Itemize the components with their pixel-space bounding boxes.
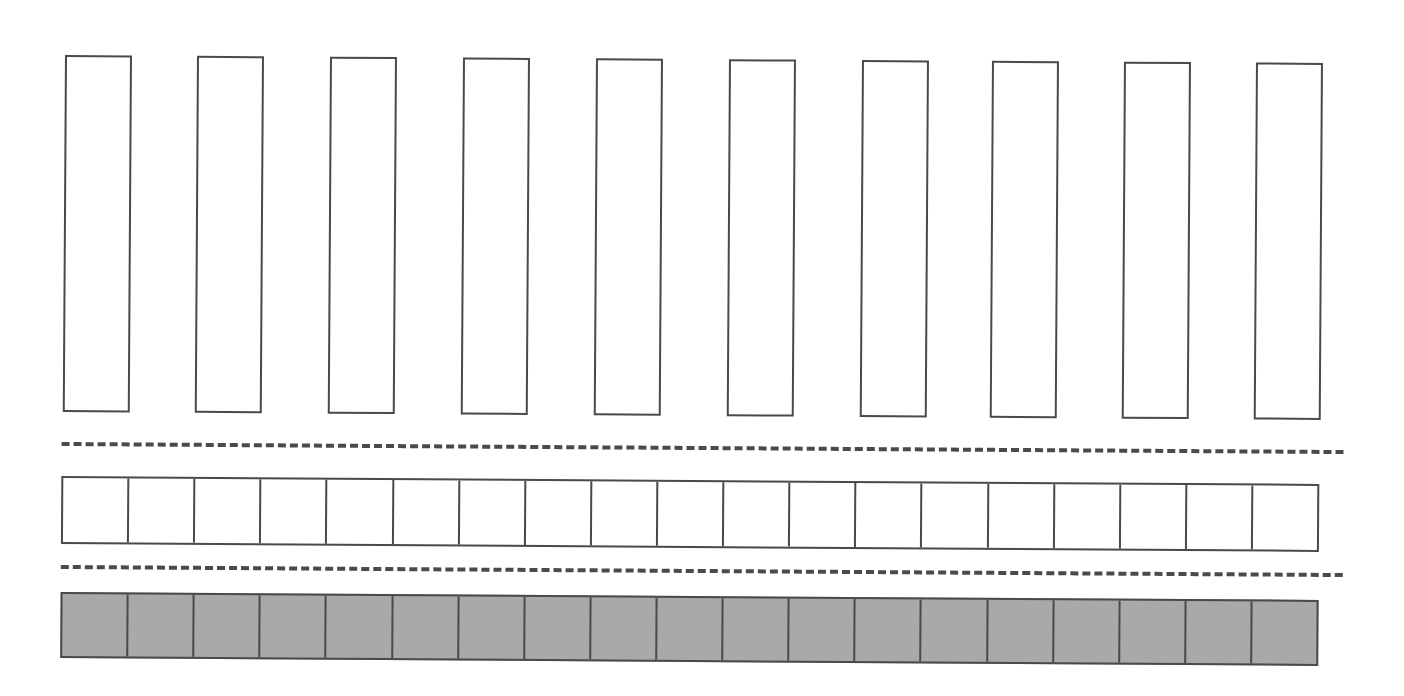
empty-row-cell [526, 481, 593, 545]
empty-row-cell [724, 482, 791, 546]
filled-row-cell [988, 600, 1054, 662]
tall-rectangle-5 [594, 58, 663, 415]
empty-row-cell [1121, 485, 1188, 549]
empty-row-cell [327, 480, 394, 544]
filled-row-cell [128, 594, 194, 656]
tall-rectangle-6 [727, 59, 796, 416]
filled-row-cell [789, 599, 855, 661]
tall-rectangle-9 [1122, 62, 1191, 419]
filled-row-cell [525, 597, 591, 659]
filled-row-cell [459, 596, 525, 658]
empty-row [61, 476, 1319, 552]
filled-row-cell [657, 598, 723, 660]
tall-rectangle-3 [328, 57, 397, 414]
empty-row-cell [1187, 485, 1254, 549]
filled-row-cell [327, 596, 393, 658]
empty-row-cell [63, 478, 130, 542]
empty-row-cell [988, 484, 1055, 548]
filled-row-cell [194, 595, 260, 657]
filled-row-cell [723, 598, 789, 660]
diagram-figure [0, 0, 1404, 696]
tall-rectangle-8 [990, 61, 1059, 418]
filled-row-cell [922, 599, 988, 661]
empty-row-cell [592, 481, 659, 545]
empty-row-cell [658, 482, 725, 546]
tall-rectangle-1 [63, 55, 132, 412]
empty-row-cell [790, 483, 857, 547]
filled-row-cell [62, 594, 128, 656]
cell-row-group [0, 0, 1404, 8]
filled-row-cell [261, 595, 327, 657]
empty-row-cell [856, 483, 923, 547]
diagram-canvas [0, 0, 1404, 696]
tall-rectangle-group [0, 0, 1404, 8]
tall-rectangle-7 [860, 60, 929, 417]
empty-row-cell [195, 479, 262, 543]
empty-row-cell [261, 479, 328, 543]
filled-row [60, 592, 1318, 666]
dashed-separator-2 [61, 565, 1343, 577]
empty-row-cell [129, 478, 196, 542]
filled-row-cell [1252, 601, 1316, 663]
empty-row-cell [922, 483, 989, 547]
filled-row-cell [393, 596, 459, 658]
dashed-separator-1 [62, 442, 1344, 454]
filled-row-cell [1054, 600, 1120, 662]
filled-row-cell [591, 597, 657, 659]
tall-rectangle-4 [461, 58, 530, 415]
empty-row-cell [1055, 484, 1122, 548]
filled-row-cell [1186, 601, 1252, 663]
tall-rectangle-2 [195, 56, 264, 413]
filled-row-cell [1120, 601, 1186, 663]
tall-rectangle-10 [1254, 62, 1323, 419]
empty-row-cell [460, 480, 527, 544]
empty-row-cell [393, 480, 460, 544]
empty-row-cell [1253, 485, 1318, 549]
dashed-separator-group [0, 0, 1404, 8]
filled-row-cell [856, 599, 922, 661]
